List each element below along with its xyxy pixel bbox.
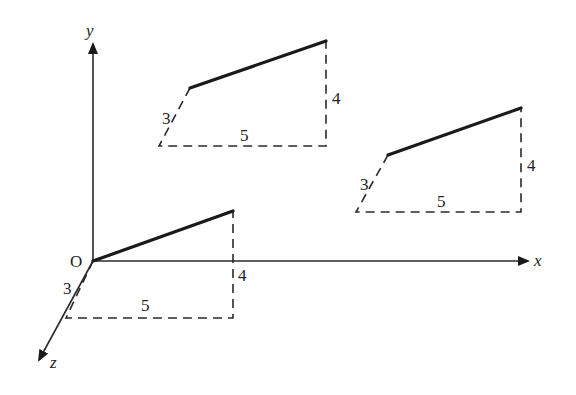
y-component-label: 4 [332,89,341,108]
diagram-canvas: O x y z 3 5 4 3 5 4 3 5 4 [0,0,576,395]
axes: O x y z [39,21,542,372]
z-component-label: 3 [360,175,369,194]
y-axis-label: y [84,21,94,40]
vector-arrow [93,211,233,261]
x-component-label: 5 [141,296,150,315]
vector-translated-right: 3 5 4 [356,108,536,212]
y-component-label: 4 [527,156,536,175]
vector-arrow [388,108,521,155]
vector-at-origin: 3 5 4 [63,211,247,318]
y-component-label: 4 [238,266,247,285]
z-component-label: 3 [63,279,72,298]
origin-label: O [70,252,82,271]
vector-arrow [190,41,326,88]
component-box [66,211,233,318]
x-component-label: 5 [437,192,446,211]
z-component-label: 3 [162,109,171,128]
x-component-label: 5 [240,126,249,145]
vector-translated-upper-left: 3 5 4 [159,41,341,146]
x-axis-label: x [533,251,542,270]
z-axis [39,261,93,360]
z-axis-label: z [49,353,57,372]
